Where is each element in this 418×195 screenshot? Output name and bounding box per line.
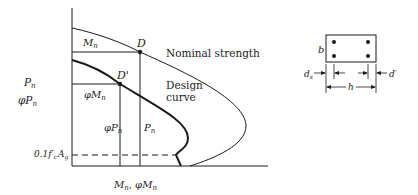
arrowhead [334,71,339,75]
arrowhead [321,71,326,75]
point-d [138,50,142,54]
arrowhead [326,85,331,89]
x-axis-label: Mn, φMn [113,179,157,192]
label-ds: ds [304,69,313,80]
rebar [366,40,370,44]
label-design-line2: curve [166,91,196,103]
arrowhead [371,85,376,89]
arrowhead [363,71,368,75]
column-cross-section: b ds d′ h [304,35,397,93]
y-axis-label-pn: Pn [23,76,36,90]
rebar [332,40,336,44]
label-b: b [318,44,324,55]
label-design-line1: Design [166,79,203,91]
section-rect [326,35,376,62]
design-curve [72,60,188,166]
label-limit: 0.1f′cAg [34,149,69,161]
point-d-prime [118,82,122,86]
label-mn: Mn [82,37,98,50]
label-nominal-strength: Nominal strength [166,47,260,59]
y-axis-label-phi-pn: φPn [18,94,37,108]
label-h: h [348,82,354,92]
rebar [366,54,370,58]
interaction-diagram: D D' Mn φMn φPn Pn Nominal strength Desi… [0,0,418,195]
label-d: D [136,37,146,50]
label-phi-mn: φMn [84,89,106,102]
rebar [332,54,336,58]
label-pn: Pn [143,122,156,135]
arrowhead [376,71,381,75]
label-d-prime: D' [116,69,129,82]
label-d-prime-section: d′ [389,69,397,79]
